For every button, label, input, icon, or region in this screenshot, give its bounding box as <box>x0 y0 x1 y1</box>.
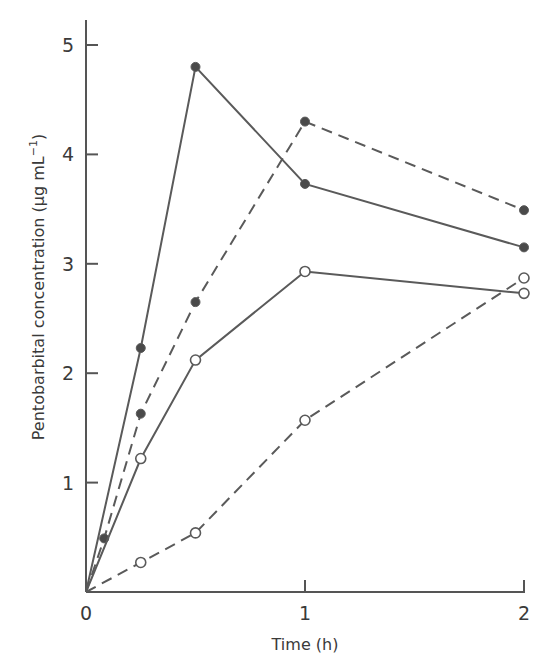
y-axis-title-main: Pentobarbital concentration (µg mL <box>29 156 48 440</box>
y-tick-label: 4 <box>62 143 74 165</box>
y-tick-label: 3 <box>62 253 74 275</box>
filled-circle-marker <box>520 206 529 215</box>
open-circle-marker <box>191 528 201 538</box>
x-tick-label: 2 <box>518 602 530 624</box>
filled-circle-marker <box>301 117 310 126</box>
x-tick-label: 1 <box>299 602 311 624</box>
y-tick-label: 2 <box>62 362 74 384</box>
axes: 12345 012 <box>62 20 530 624</box>
series-line <box>86 67 524 592</box>
open-circle-marker <box>136 557 146 567</box>
y-ticks: 12345 <box>62 34 98 494</box>
series-line <box>86 272 524 593</box>
open-circle-marker <box>136 454 146 464</box>
x-ticks: 012 <box>80 580 530 624</box>
y-tick-label: 5 <box>62 34 74 56</box>
series-open-solid <box>86 266 529 592</box>
y-axis-title: Pentobarbital concentration (µg mL−1) <box>27 134 48 440</box>
pentobarbital-line-chart: 12345 012 Time (h) Pentobarbital concent… <box>0 0 545 671</box>
filled-circle-marker <box>520 243 529 252</box>
filled-circle-marker <box>136 409 145 418</box>
series-layer <box>86 62 529 592</box>
filled-circle-marker <box>191 298 200 307</box>
open-circle-marker <box>300 266 310 276</box>
y-axis-title-superscript: −1 <box>27 140 40 156</box>
series-line <box>86 122 524 592</box>
y-tick-label: 1 <box>62 472 74 494</box>
open-circle-marker <box>191 355 201 365</box>
open-circle-marker <box>519 288 529 298</box>
series-filled-solid <box>86 62 529 592</box>
filled-circle-marker <box>301 179 310 188</box>
series-open-dashed <box>86 273 529 592</box>
series-line <box>86 278 524 592</box>
filled-circle-marker <box>136 344 145 353</box>
y-axis-title-close: ) <box>29 134 48 140</box>
filled-circle-marker <box>191 62 200 71</box>
open-circle-marker <box>519 273 529 283</box>
x-tick-label: 0 <box>80 602 92 624</box>
open-circle-marker <box>300 415 310 425</box>
x-axis-title: Time (h) <box>271 635 339 654</box>
